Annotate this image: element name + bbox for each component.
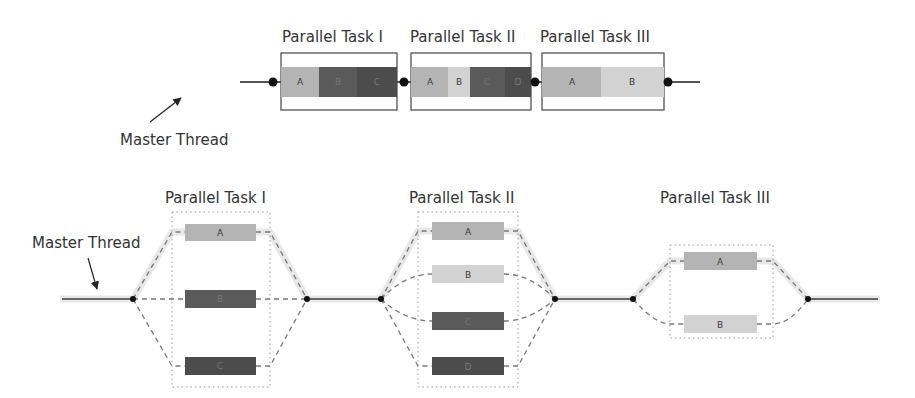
thread-d-label: D xyxy=(465,362,472,372)
bottom-task-3-title: Parallel Task III xyxy=(660,189,770,207)
fork-dot xyxy=(630,296,636,302)
top-task-1: Parallel Task I A B C xyxy=(281,28,397,110)
bottom-task-3: Parallel Task III A B xyxy=(633,189,808,338)
fork-dot xyxy=(130,296,136,302)
bottom-diagram: Parallel Task I A B C Parallel Task II xyxy=(32,189,880,387)
fork-join-diagram: Parallel Task I A B C Parallel Task II A… xyxy=(0,0,915,398)
bottom-task-2: Parallel Task II A B C D xyxy=(381,189,555,387)
segment-c-label: C xyxy=(484,77,490,87)
thread-b-label: B xyxy=(217,294,223,304)
thread-a-label: A xyxy=(465,227,472,237)
top-task-2-title: Parallel Task II xyxy=(410,28,515,46)
thread-a-label: A xyxy=(717,257,724,267)
thread-a-label: A xyxy=(217,228,224,238)
bottom-task-2-title: Parallel Task II xyxy=(409,189,514,207)
segment-a-label: A xyxy=(297,77,304,87)
join-dot xyxy=(531,78,540,87)
bottom-master-thread-label: Master Thread xyxy=(32,234,140,252)
thread-b-label: B xyxy=(465,270,471,280)
segment-b-label: B xyxy=(456,77,462,87)
top-task-1-title: Parallel Task I xyxy=(282,28,383,46)
segment-a-label: A xyxy=(427,77,434,87)
top-task-3-title: Parallel Task III xyxy=(540,28,650,46)
join-dot xyxy=(664,78,673,87)
fork-dot xyxy=(378,296,384,302)
bottom-task-1: Parallel Task I A B C xyxy=(133,189,307,387)
segment-a-label: A xyxy=(569,77,576,87)
segment-b-label: B xyxy=(629,77,635,87)
join-dot xyxy=(304,296,310,302)
fork-dot xyxy=(269,78,278,87)
join-dot xyxy=(400,78,409,87)
segment-d-label: D xyxy=(515,77,522,87)
top-task-2: Parallel Task II A B C D xyxy=(410,28,531,110)
segment-b-label: B xyxy=(335,77,341,87)
thread-b-label: B xyxy=(717,320,723,330)
join-dot xyxy=(805,296,811,302)
top-diagram: Parallel Task I A B C Parallel Task II A… xyxy=(120,28,700,149)
bottom-task-1-title: Parallel Task I xyxy=(165,189,266,207)
top-master-thread-label: Master Thread xyxy=(120,131,228,149)
thread-c-label: C xyxy=(217,361,223,371)
top-task-3: Parallel Task III A B xyxy=(540,28,664,110)
arrow-icon xyxy=(150,98,181,122)
segment-c-label: C xyxy=(374,77,380,87)
thread-c-label: C xyxy=(465,317,471,327)
join-dot xyxy=(552,296,558,302)
arrow-icon xyxy=(88,258,97,289)
